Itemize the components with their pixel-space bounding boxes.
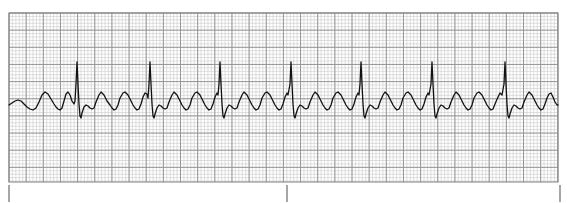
ecg-rhythm-strip: ECG Rhythm Strip (0, 0, 567, 203)
ecg-chart (0, 0, 567, 203)
